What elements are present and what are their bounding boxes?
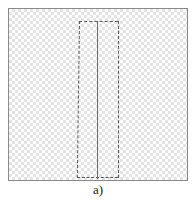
center-line (97, 21, 98, 179)
domain-frame (8, 8, 188, 181)
panel-caption: a) (0, 182, 196, 197)
dashed-subdomain-left-edge (77, 21, 80, 178)
dashed-subdomain-top-edge (79, 21, 118, 22)
figure-panel: a) (0, 0, 196, 200)
mesh-texture-overlay (9, 9, 187, 180)
dashed-subdomain-right-edge (118, 21, 119, 178)
